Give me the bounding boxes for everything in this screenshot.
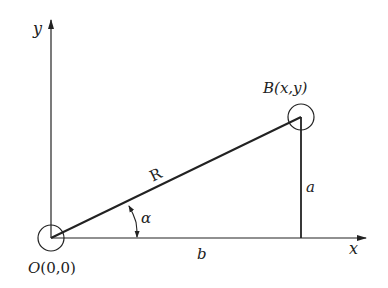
point-b-label: B(x,y) — [262, 79, 308, 97]
y-axis-label: y — [32, 19, 43, 38]
hypotenuse-line-R — [51, 117, 301, 238]
point-b-name: B — [262, 79, 274, 97]
angle-label: α — [141, 209, 151, 227]
hypotenuse-label: R — [147, 164, 166, 185]
origin-coords: (0,0) — [40, 259, 76, 277]
vertical-side-label: a — [306, 178, 315, 196]
angle-alpha-arc-lower — [136, 222, 137, 237]
origin-name: O — [28, 259, 40, 277]
coordinate-diagram: y x B(x,y) O(0,0) R α a b — [0, 0, 388, 288]
horizontal-side-label: b — [197, 245, 207, 263]
point-b-coords: (x,y) — [274, 79, 308, 97]
x-axis-label: x — [349, 239, 358, 258]
angle-alpha-arc — [129, 206, 136, 222]
origin-label: O(0,0) — [28, 259, 76, 277]
